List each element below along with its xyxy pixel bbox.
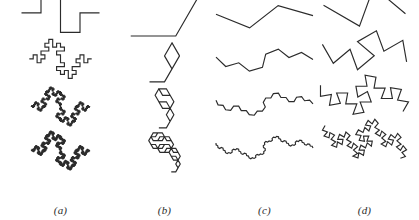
fractal-curve-d-4 [312,134,417,179]
fractal-curve-b-3 [112,90,217,135]
fractal-curve-b-4 [112,134,217,179]
fractal-cell-d-2 [312,45,417,90]
fractal-curve-a-2 [8,45,113,90]
fractal-curve-a-4 [8,134,113,179]
fractal-curve-c-1 [212,0,317,45]
fractal-curve-d-2 [312,45,417,90]
fractal-cell-b-3 [112,90,217,135]
panel-label-a: (a) [8,204,113,216]
fractal-cell-a-4 [8,134,113,179]
fractal-curve-b-1 [112,0,217,45]
panel-column-d: (d) [312,0,417,220]
fractal-cell-a-1 [8,0,113,45]
fractal-cell-b-1 [112,0,217,45]
panel-label-d: (d) [312,204,417,216]
fractal-cell-d-4 [312,134,417,179]
fractal-cell-a-3 [8,90,113,135]
fractal-curve-b-2 [112,45,217,90]
fractal-curve-c-3 [212,90,317,135]
panel-column-a: (a) [8,0,113,220]
panel-column-b: (b) [112,0,217,220]
fractal-cell-b-2 [112,45,217,90]
fractal-curve-c-4 [212,134,317,179]
panel-label-b: (b) [112,204,217,216]
fractal-cell-c-1 [212,0,317,45]
fractal-cell-c-4 [212,134,317,179]
fractal-cell-a-2 [8,45,113,90]
fractal-figure: (a) (b) (c) [0,0,419,220]
fractal-curve-c-2 [212,45,317,90]
panel-label-c: (c) [212,204,317,216]
fractal-cell-b-4 [112,134,217,179]
fractal-cell-c-3 [212,90,317,135]
fractal-curve-a-1 [8,0,113,45]
fractal-curve-a-3 [8,90,113,135]
fractal-cell-c-2 [212,45,317,90]
panel-column-c: (c) [212,0,317,220]
